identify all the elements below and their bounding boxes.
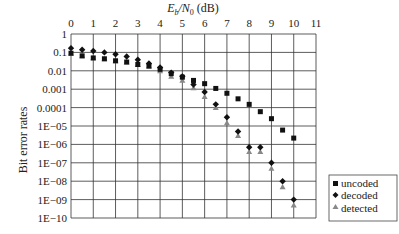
- decoded-point: [279, 178, 285, 184]
- decoded-point: [291, 196, 297, 202]
- detected-point: [280, 184, 286, 189]
- decoded-point: [213, 101, 219, 107]
- decoded-point: [79, 47, 85, 53]
- ber-chart: 01234567891011 10.10.010.0010.00011E−051…: [0, 0, 399, 234]
- decoded-point: [135, 57, 141, 63]
- uncoded-point: [224, 91, 229, 96]
- x-tick-label: 2: [113, 17, 119, 29]
- decoded-point: [68, 45, 74, 51]
- decoded-point: [235, 128, 241, 134]
- y-tick-label: 0.01: [48, 65, 67, 77]
- legend-decoded-label: decoded: [341, 189, 378, 201]
- x-tick-label: 7: [224, 17, 230, 29]
- x-tick-label: 0: [68, 17, 74, 29]
- uncoded-point: [247, 102, 252, 107]
- y-tick-label: 1E−07: [38, 157, 68, 169]
- grid: [71, 34, 316, 218]
- y-tick-label: 0.0001: [37, 102, 67, 114]
- y-tick-label: 1E−09: [38, 194, 68, 206]
- y-tick-label: 1: [62, 28, 68, 40]
- x-tick-label: 8: [246, 17, 252, 29]
- x-tick-label: 1: [91, 17, 97, 29]
- decoded-point: [123, 53, 129, 59]
- uncoded-point: [91, 55, 96, 60]
- y-tick-label: 1E−10: [38, 212, 68, 224]
- x-tick-label: 10: [288, 17, 300, 29]
- y-tick-label: 1E−05: [38, 120, 68, 132]
- uncoded-point: [213, 86, 218, 91]
- decoded-point: [90, 48, 96, 54]
- y-axis-label: Bit error rates: [16, 106, 30, 173]
- y-tick-label: 1E−08: [38, 175, 68, 187]
- decoded-point: [101, 49, 107, 55]
- x-tick-label: 3: [135, 17, 141, 29]
- uncoded-point: [236, 96, 241, 101]
- uncoded-point: [291, 136, 296, 141]
- y-tick-label: 0.1: [53, 46, 67, 58]
- uncoded-point: [124, 60, 129, 65]
- x-tick-label: 4: [157, 17, 163, 29]
- x-tick-label: 5: [180, 17, 186, 29]
- decoded-point: [224, 114, 230, 120]
- uncoded-point: [80, 53, 85, 58]
- legend-uncoded-icon: [333, 181, 338, 186]
- detected-point: [268, 166, 274, 171]
- detected-point: [291, 202, 297, 207]
- x-axis-ticks: 01234567891011: [68, 17, 321, 29]
- x-tick-label: 6: [202, 17, 208, 29]
- decoded-point: [112, 51, 118, 57]
- y-tick-label: 0.001: [42, 83, 67, 95]
- detected-point: [224, 120, 230, 125]
- decoded-point: [201, 89, 207, 95]
- uncoded-point: [113, 58, 118, 63]
- y-tick-label: 1E−06: [38, 138, 68, 150]
- x-axis-label: Eb/N0 (dB): [166, 1, 219, 17]
- decoded-point: [246, 144, 252, 150]
- uncoded-point: [280, 128, 285, 133]
- x-tick-label: 11: [311, 17, 322, 29]
- legend-detected-label: detected: [341, 202, 378, 214]
- decoded-point: [257, 144, 263, 150]
- decoded-point: [268, 160, 274, 166]
- y-axis-ticks: 10.10.010.0010.00011E−051E−061E−071E−081…: [37, 28, 68, 224]
- legend-uncoded-label: uncoded: [341, 177, 379, 189]
- x-tick-label: 9: [269, 17, 275, 29]
- uncoded-point: [102, 56, 107, 61]
- uncoded-point: [269, 116, 274, 121]
- legend: uncoded decoded detected: [329, 175, 397, 221]
- uncoded-point: [258, 109, 263, 114]
- uncoded-point: [202, 81, 207, 86]
- uncoded-point: [69, 51, 74, 56]
